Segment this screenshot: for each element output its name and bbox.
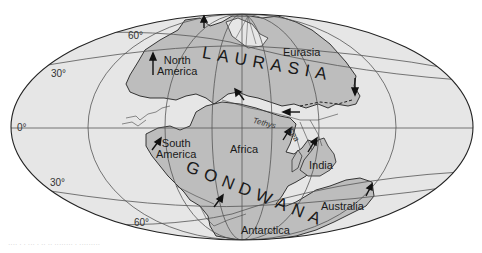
label-australia: Australia [321,201,364,212]
label-north-america-line2: America [157,66,197,77]
lat-label-s60: 60° [134,218,149,228]
label-africa: Africa [230,144,258,155]
pangaea-map [0,0,482,253]
label-india: India [309,160,333,171]
label-antarctica: Antarctica [241,225,290,236]
label-eurasia: Eurasia [283,47,320,58]
lat-label-n30: 30° [51,69,66,79]
lat-label-n60: 60° [128,31,143,41]
lat-label-s30: 30° [50,178,65,188]
lat-label-eq: 0° [17,123,27,133]
figure-caption: ···· · · ··· · ·· ·· ········ · ········… [8,241,100,248]
label-north-america: North America [157,55,197,77]
